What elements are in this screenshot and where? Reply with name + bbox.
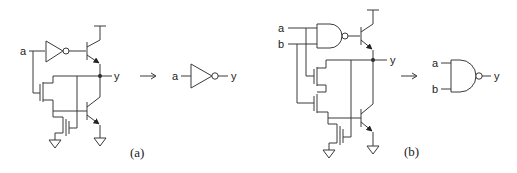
caption-a: (a) <box>130 145 144 160</box>
input-a-label: a <box>20 45 27 57</box>
ground-icon <box>323 150 335 158</box>
equivalent-nand-b: a b y <box>432 57 500 95</box>
nmos-transistor-bottom-icon <box>323 118 351 158</box>
equiv-input-b-label: b <box>432 83 438 95</box>
nmos-transistor-1-icon <box>40 76 100 111</box>
nmos-transistor-2-icon <box>49 111 77 148</box>
ground-icon <box>94 138 106 146</box>
ground-icon <box>367 146 379 154</box>
equiv-output-y-label: y <box>231 70 237 82</box>
equiv-output-y-label: y <box>494 70 500 82</box>
equivalence-arrow-b <box>401 73 417 79</box>
equivalent-inverter-a: a y <box>172 64 237 88</box>
equiv-input-a-label: a <box>172 70 179 82</box>
nand-gate-icon <box>317 24 348 48</box>
npn-transistor-lower-icon <box>87 97 106 146</box>
npn-transistor-lower-icon <box>361 104 379 154</box>
npn-transistor-upper-icon <box>87 26 106 76</box>
inverter-icon <box>46 41 69 62</box>
panel-b-circuit: a b y <box>278 10 419 159</box>
equivalence-arrow-a <box>140 73 156 79</box>
inverter-icon <box>191 64 218 88</box>
input-b-label: b <box>278 38 284 50</box>
nand-gate-icon <box>451 60 482 92</box>
output-y-label: y <box>390 54 396 66</box>
caption-b: (b) <box>404 144 419 159</box>
equiv-input-a-label: a <box>432 57 439 69</box>
nmos-stack-icon <box>314 60 373 118</box>
panel-a-circuit: a y <box>20 26 144 160</box>
npn-transistor-upper-icon <box>361 10 379 60</box>
input-a-label: a <box>278 22 285 34</box>
output-y-label: y <box>114 70 120 82</box>
ground-icon <box>49 140 61 148</box>
bicmos-gates-figure: a y <box>0 0 517 173</box>
